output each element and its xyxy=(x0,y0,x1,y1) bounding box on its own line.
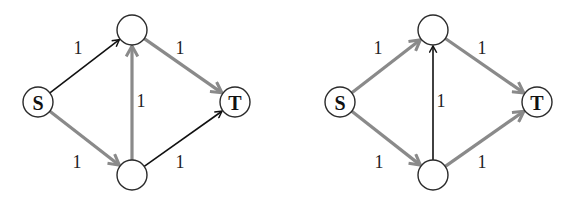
edge-capacity-label: 1 xyxy=(375,152,384,172)
node-label-t: T xyxy=(530,92,544,114)
node-label-t: T xyxy=(228,92,242,114)
edge-capacity-label: 1 xyxy=(478,152,487,172)
graph-left: 11111ST xyxy=(23,15,250,190)
node-a xyxy=(418,15,448,45)
edge-S-A xyxy=(50,40,119,93)
edge-capacity-label: 1 xyxy=(176,152,185,172)
node-b xyxy=(418,160,448,190)
node-label-s: S xyxy=(32,92,43,114)
node-a xyxy=(117,15,147,45)
edge-capacity-label: 1 xyxy=(374,38,383,58)
edge-S-B xyxy=(352,111,421,165)
edge-S-A xyxy=(352,40,420,93)
graph-right: 11111ST xyxy=(325,15,552,190)
node-label-s: S xyxy=(334,92,345,114)
edge-S-B xyxy=(50,111,120,165)
edge-capacity-label: 1 xyxy=(437,91,446,111)
edge-capacity-label: 1 xyxy=(137,91,146,111)
edge-capacity-label: 1 xyxy=(74,38,83,58)
node-b xyxy=(117,160,147,190)
edge-capacity-label: 1 xyxy=(73,152,82,172)
flow-network-diagram: 11111ST 11111ST xyxy=(0,0,568,204)
edge-capacity-label: 1 xyxy=(176,38,185,58)
edge-capacity-label: 1 xyxy=(478,38,487,58)
